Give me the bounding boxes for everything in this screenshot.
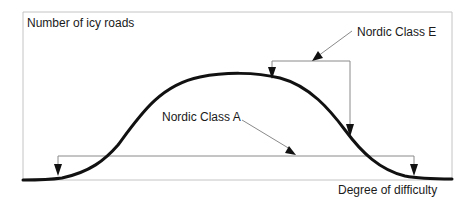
x-axis-label: Degree of difficulty <box>338 184 437 196</box>
class-e-label: Nordic Class E <box>357 26 436 38</box>
class-a-bracket <box>54 156 418 176</box>
class-a-right-arrow-icon <box>410 164 418 176</box>
y-axis-label: Number of icy roads <box>27 17 134 29</box>
class-a-leader <box>242 120 296 155</box>
class-e-leader <box>312 31 352 61</box>
class-a-label: Nordic Class A <box>162 111 241 123</box>
class-a-left-arrow-icon <box>54 164 62 176</box>
class-e-pointer-icon <box>312 51 323 61</box>
distribution-curve <box>23 73 452 180</box>
